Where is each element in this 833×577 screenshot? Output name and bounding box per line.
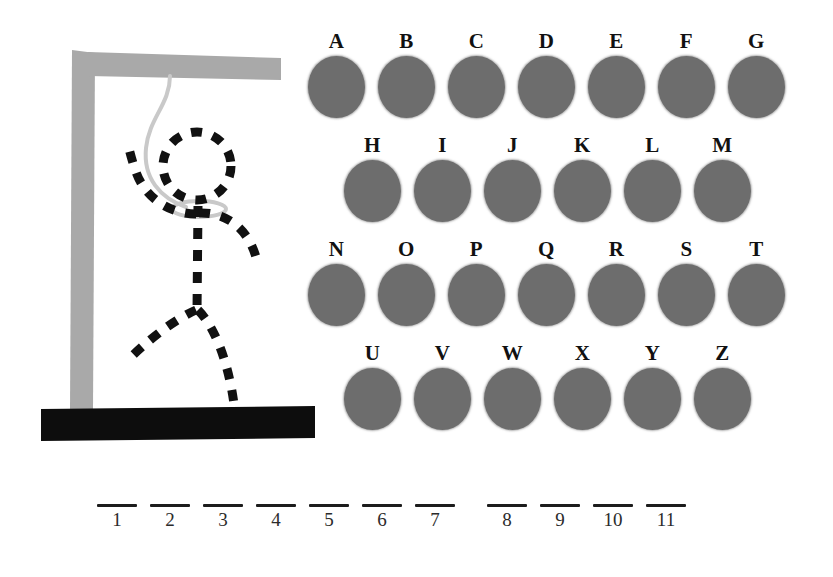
blank-rule (150, 504, 190, 507)
letter-row-3: NOPQRST (305, 236, 815, 340)
letter-key-p[interactable]: P (445, 236, 508, 328)
letter-key-label: Y (621, 340, 684, 366)
blank-index: 8 (485, 508, 529, 532)
letter-key-t[interactable]: T (725, 236, 788, 328)
letter-key-i[interactable]: I (411, 132, 474, 224)
letter-key-disc[interactable] (658, 264, 715, 326)
letter-key-label: X (551, 340, 614, 366)
word-blank-slot: 4 (254, 496, 298, 542)
letter-key-label: C (445, 28, 508, 54)
word-blank-slot: 1 (95, 496, 139, 542)
letter-row-1: ABCDEFG (305, 28, 815, 132)
letter-key-e[interactable]: E (585, 28, 648, 120)
letter-key-n[interactable]: N (305, 236, 368, 328)
letter-key-label: J (481, 132, 544, 158)
blank-index: 2 (148, 508, 192, 532)
letter-key-label: T (725, 236, 788, 262)
letter-key-disc[interactable] (308, 264, 365, 326)
letter-row-2: HIJKLM (341, 132, 815, 236)
letter-key-disc[interactable] (694, 160, 751, 222)
letter-key-label: S (655, 236, 718, 262)
letter-key-l[interactable]: L (621, 132, 684, 224)
letter-key-f[interactable]: F (655, 28, 718, 120)
letter-key-disc[interactable] (448, 56, 505, 118)
blank-rule (415, 504, 455, 507)
letter-key-disc[interactable] (484, 368, 541, 430)
letter-key-disc[interactable] (658, 56, 715, 118)
letter-key-disc[interactable] (344, 160, 401, 222)
letter-key-disc[interactable] (694, 368, 751, 430)
letter-key-r[interactable]: R (585, 236, 648, 328)
letter-row-4: UVWXYZ (341, 340, 815, 444)
gallows-illustration (0, 0, 330, 460)
figure-right-leg (198, 310, 234, 404)
figure-left-leg (131, 310, 196, 357)
figure-body (197, 206, 198, 312)
blank-index: 11 (644, 508, 688, 532)
letter-key-label: R (585, 236, 648, 262)
blank-rule (256, 504, 296, 507)
blank-index: 10 (591, 508, 635, 532)
letter-key-disc[interactable] (414, 160, 471, 222)
letter-key-disc[interactable] (414, 368, 471, 430)
letter-key-o[interactable]: O (375, 236, 438, 328)
letter-keyboard: ABCDEFGHIJKLMNOPQRSTUVWXYZ (305, 28, 815, 444)
letter-key-disc[interactable] (378, 56, 435, 118)
letter-key-w[interactable]: W (481, 340, 544, 432)
letter-key-k[interactable]: K (551, 132, 614, 224)
letter-key-s[interactable]: S (655, 236, 718, 328)
letter-key-label: F (655, 28, 718, 54)
letter-key-disc[interactable] (554, 368, 611, 430)
letter-key-a[interactable]: A (305, 28, 368, 120)
letter-key-label: U (341, 340, 404, 366)
letter-key-disc[interactable] (518, 56, 575, 118)
letter-key-b[interactable]: B (375, 28, 438, 120)
letter-key-d[interactable]: D (515, 28, 578, 120)
letter-key-c[interactable]: C (445, 28, 508, 120)
word-blanks: 1234567891011 (0, 496, 833, 556)
blank-rule (203, 504, 243, 507)
letter-key-label: E (585, 28, 648, 54)
blank-index: 6 (360, 508, 404, 532)
letter-key-disc[interactable] (344, 368, 401, 430)
letter-key-label: I (411, 132, 474, 158)
letter-key-q[interactable]: Q (515, 236, 578, 328)
letter-key-label: D (515, 28, 578, 54)
blank-index: 7 (413, 508, 457, 532)
letter-key-h[interactable]: H (341, 132, 404, 224)
letter-key-z[interactable]: Z (691, 340, 754, 432)
letter-key-disc[interactable] (518, 264, 575, 326)
letter-key-v[interactable]: V (411, 340, 474, 432)
figure-right-arm (199, 213, 257, 261)
letter-key-label: Z (691, 340, 754, 366)
word-blank-slot: 11 (644, 496, 688, 542)
letter-key-y[interactable]: Y (621, 340, 684, 432)
letter-key-j[interactable]: J (481, 132, 544, 224)
letter-key-m[interactable]: M (691, 132, 754, 224)
letter-key-disc[interactable] (588, 264, 645, 326)
letter-key-disc[interactable] (624, 368, 681, 430)
letter-key-disc[interactable] (588, 56, 645, 118)
word-blank-slot: 9 (538, 496, 582, 542)
word-blank-slot: 7 (413, 496, 457, 542)
blank-rule (646, 504, 686, 507)
letter-key-disc[interactable] (728, 264, 785, 326)
letter-key-label: H (341, 132, 404, 158)
hangman-game: ABCDEFGHIJKLMNOPQRSTUVWXYZ 1234567891011 (0, 0, 833, 577)
blank-index: 4 (254, 508, 298, 532)
letter-key-disc[interactable] (554, 160, 611, 222)
letter-key-disc[interactable] (448, 264, 505, 326)
word-blank-slot: 5 (307, 496, 351, 542)
letter-key-x[interactable]: X (551, 340, 614, 432)
letter-key-disc[interactable] (484, 160, 541, 222)
letter-key-disc[interactable] (728, 56, 785, 118)
letter-key-u[interactable]: U (341, 340, 404, 432)
blank-index: 9 (538, 508, 582, 532)
letter-key-g[interactable]: G (725, 28, 788, 120)
letter-key-label: P (445, 236, 508, 262)
blank-index: 3 (201, 508, 245, 532)
letter-key-disc[interactable] (624, 160, 681, 222)
word-blank-slot: 3 (201, 496, 245, 542)
letter-key-disc[interactable] (308, 56, 365, 118)
letter-key-disc[interactable] (378, 264, 435, 326)
